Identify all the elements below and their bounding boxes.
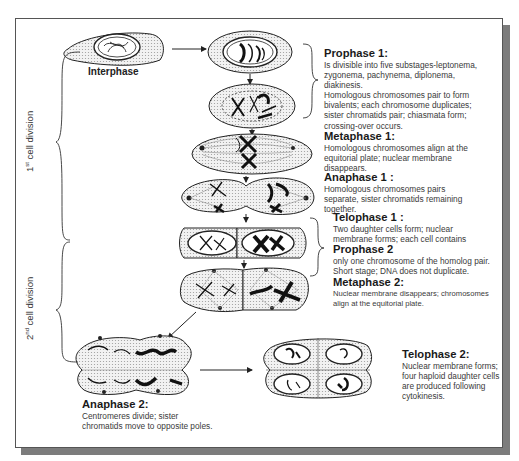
second-division-label: 2nd cell division xyxy=(24,277,35,340)
text-line: are produced following xyxy=(402,381,512,391)
anaphase1-cell xyxy=(182,178,314,215)
metaphase2-title: Metaphase 2: xyxy=(333,276,513,289)
prophase1-brace xyxy=(303,44,318,118)
text-line: align at the equitorial plate. xyxy=(333,299,513,309)
telophase2-text: Telophase 2: Nuclear membrane forms; fou… xyxy=(402,348,512,401)
anaphase2-cells xyxy=(76,334,191,395)
anaphase1-title: Anaphase 1 : xyxy=(324,171,514,184)
metaphase1-title: Metaphase 1: xyxy=(324,130,514,143)
text-line: Nuclear membrane forms; xyxy=(402,361,512,371)
metaphase2-text: Metaphase 2: Nuclear membrane disappears… xyxy=(333,276,513,309)
telophase1-text: Telophase 1 : Two daughter cells form; n… xyxy=(333,211,513,244)
prophase2-text: Prophase 2 only one chromosome of the ho… xyxy=(333,243,513,276)
telophase1-cells xyxy=(180,228,307,258)
prophase1-cell-early xyxy=(208,31,292,73)
text-line: bivalents; each chromosome duplicates; xyxy=(324,100,514,110)
telophase1-title: Telophase 1 : xyxy=(333,211,513,224)
text-line: Short stage; DNA does not duplicate. xyxy=(333,266,513,276)
text-line: sister chromatids pair; chiasmata form; xyxy=(324,110,514,120)
anaphase2-text: Anaphase 2: Centromeres divide; sister c… xyxy=(82,398,282,431)
text-line: only one chromosome of the homolog pair. xyxy=(333,256,513,266)
text-line: Two daughter cells form; nuclear xyxy=(333,224,513,234)
text-line: equitorial plate; nuclear membrane xyxy=(324,153,514,163)
telophase2-title: Telophase 2: xyxy=(402,348,512,361)
text-line: Homologous chromosomes pairs xyxy=(324,184,514,194)
text-line: separate, sister chromatids remaining xyxy=(324,194,514,204)
text-line: Homologous chromosomes align at the xyxy=(324,143,514,153)
text-line: chromatids move to opposite poles. xyxy=(82,421,282,431)
text-line: Homologous chromosomes pair to form xyxy=(324,90,514,100)
prophase1-cell-late xyxy=(209,84,295,128)
text-line: four haploid daughter cells xyxy=(402,371,512,381)
text-line: Centromeres divide; sister xyxy=(82,411,282,421)
text-line: zygonema, pachynema, diplonema, xyxy=(324,70,514,80)
text-line: Nuclear membrane disappears; chromosomes xyxy=(333,289,513,299)
anaphase1-text: Anaphase 1 : Homologous chromosomes pair… xyxy=(324,171,514,214)
second-division-brace xyxy=(56,242,78,362)
first-division-brace xyxy=(56,52,80,240)
text-line: Is divisible into five substages-leptone… xyxy=(324,60,514,70)
metaphase1-text: Metaphase 1: Homologous chromosomes alig… xyxy=(324,130,514,173)
text-line: diakinesis. xyxy=(324,80,514,90)
prophase2-title: Prophase 2 xyxy=(333,243,513,256)
prophase1-text: Prophase 1: Is divisible into five subst… xyxy=(324,47,514,131)
prophase1-title: Prophase 1: xyxy=(324,47,514,60)
anaphase2-title: Anaphase 2: xyxy=(82,398,282,411)
telophase1-prophase2-brace xyxy=(310,218,324,276)
interphase-label: Interphase xyxy=(88,66,139,77)
telophase2-cells xyxy=(264,338,372,398)
metaphase1-cell xyxy=(192,134,312,174)
metaphase2-cells xyxy=(180,268,308,312)
interphase-cell xyxy=(64,33,164,65)
first-division-label: 1st cell division xyxy=(24,111,35,172)
text-line: cytokinesis. xyxy=(402,391,512,401)
